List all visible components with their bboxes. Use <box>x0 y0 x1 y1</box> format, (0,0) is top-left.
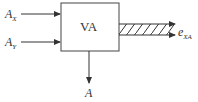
output-label-exa: eXA <box>178 26 192 43</box>
output-bus-hatch <box>119 24 174 35</box>
input-label-ax: AX <box>5 8 17 25</box>
input-label-ay: AY <box>5 36 16 53</box>
block-label: VA <box>80 19 97 35</box>
output-label-a: A <box>85 87 92 99</box>
diagram: VA AX AY eXA A <box>0 0 198 102</box>
diagram-lines <box>0 0 198 102</box>
